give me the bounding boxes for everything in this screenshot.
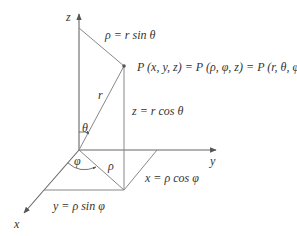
z-equals-r-cos-theta-label: z = r cos θ <box>132 105 183 117</box>
x-axis-label: x <box>14 218 19 230</box>
z-axis-label: z <box>66 11 71 23</box>
phi-label: φ <box>74 155 81 167</box>
point-p-label: P (x, y, z) = P (ρ, φ, z) = P (r, θ, φ) <box>137 61 297 73</box>
r-label: r <box>98 89 103 101</box>
theta-label: θ <box>82 122 88 134</box>
x-equals-rho-cos-phi-label: x = ρ cos φ <box>145 172 199 184</box>
phi-arc <box>68 163 96 170</box>
y-axis-label: y <box>210 155 215 167</box>
point-p <box>122 64 126 68</box>
rho-label: ρ <box>108 160 114 172</box>
r-line <box>79 66 124 150</box>
rho-equals-r-sin-theta-label: ρ = r sin θ <box>105 29 155 41</box>
y-equals-rho-sin-phi-label: y = ρ sin φ <box>53 200 105 212</box>
